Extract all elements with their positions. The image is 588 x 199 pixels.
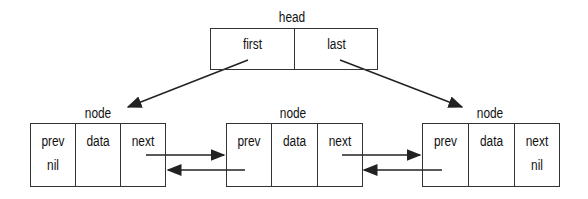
node1-data-field: data (79, 133, 116, 149)
node2-label: node (273, 105, 312, 121)
node1-box: prev nil data next (30, 123, 166, 187)
head-box: first last (210, 28, 378, 70)
head-last-field: last (301, 36, 372, 52)
node2-prev-field: prev (230, 133, 267, 149)
node1-prev-field: prev (34, 133, 71, 149)
node3-label: node (470, 105, 509, 121)
node1-next-field: next (124, 133, 161, 149)
head-label: head (267, 9, 318, 25)
node3-data-field: data (472, 133, 510, 149)
head-first-field: first (217, 36, 288, 52)
node3-next-value: nil (518, 157, 555, 173)
node2-data-field: data (275, 133, 313, 149)
node2-box: prev data next (226, 123, 363, 187)
node3-box: prev data next nil (422, 123, 560, 187)
node1-label: node (78, 105, 117, 121)
node2-next-field: next (321, 133, 358, 149)
node3-prev-field: prev (426, 133, 464, 149)
node1-prev-value: nil (34, 157, 71, 173)
node3-next-field: next (518, 133, 555, 149)
